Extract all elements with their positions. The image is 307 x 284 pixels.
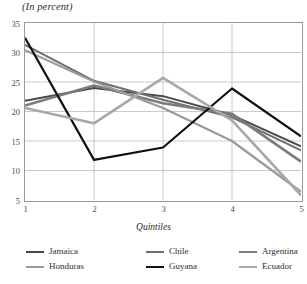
x-axis-tick-2: 2	[92, 204, 96, 214]
legend-label-chile: Chile	[169, 246, 189, 257]
legend-label-argentina: Argentina	[262, 246, 298, 257]
legend-swatch-guyana	[146, 266, 164, 268]
y-axis-tick-15: 15	[0, 137, 20, 147]
x-axis-tick-4: 4	[230, 204, 234, 214]
legend-label-ecuador: Ecuador	[262, 261, 292, 272]
x-axis-tick-5: 5	[299, 204, 303, 214]
y-axis-tick-30: 30	[0, 48, 20, 58]
legend-label-guyana: Guyana	[169, 261, 197, 272]
legend-swatch-ecuador	[239, 266, 257, 268]
x-axis-title: Quintiles	[0, 222, 307, 232]
chart-figure: (In percent) 3530252015105 12345 Quintil…	[0, 0, 307, 284]
chart-legend: JamaicaChileArgentinaHondurasGuyanaEcuad…	[26, 246, 288, 280]
y-axis-tick-5: 5	[0, 196, 20, 206]
legend-swatch-chile	[146, 251, 164, 253]
plot-area	[24, 22, 303, 202]
legend-item-jamaica[interactable]: Jamaica	[26, 246, 78, 257]
chart-title: (In percent)	[22, 1, 73, 12]
x-axis-tick-labels: 12345	[24, 204, 303, 218]
legend-item-honduras[interactable]: Honduras	[26, 261, 84, 272]
y-axis-tick-35: 35	[0, 19, 20, 29]
legend-label-jamaica: Jamaica	[49, 246, 78, 257]
legend-label-honduras: Honduras	[49, 261, 84, 272]
legend-swatch-argentina	[239, 251, 257, 253]
legend-item-chile[interactable]: Chile	[146, 246, 189, 257]
x-axis-tick-3: 3	[161, 204, 165, 214]
y-axis-tick-20: 20	[0, 107, 20, 117]
legend-swatch-honduras	[26, 266, 44, 268]
legend-item-guyana[interactable]: Guyana	[146, 261, 197, 272]
plot-svg	[25, 23, 301, 200]
x-axis-tick-1: 1	[23, 204, 27, 214]
y-axis-tick-10: 10	[0, 166, 20, 176]
legend-swatch-jamaica	[26, 251, 44, 253]
y-axis-tick-25: 25	[0, 78, 20, 88]
legend-item-argentina[interactable]: Argentina	[239, 246, 298, 257]
legend-item-ecuador[interactable]: Ecuador	[239, 261, 292, 272]
